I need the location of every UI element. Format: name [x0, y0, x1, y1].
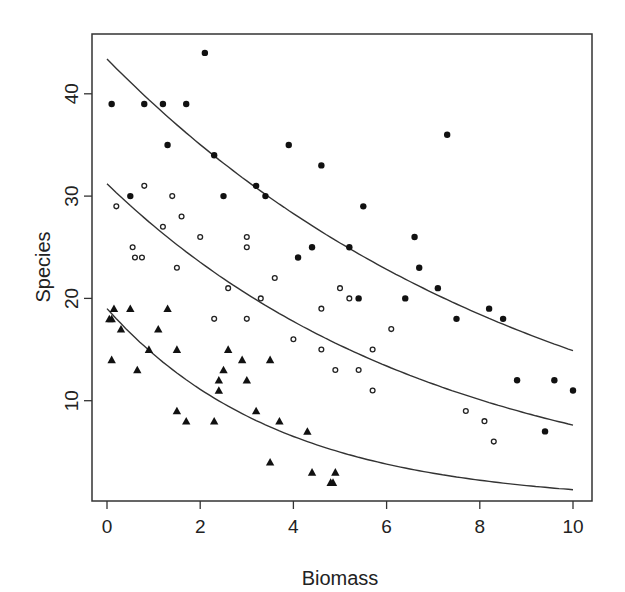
point-filled-circle — [318, 162, 324, 168]
point-filled-circle — [542, 428, 548, 434]
point-filled-circle — [411, 234, 417, 240]
point-filled-circle — [286, 142, 292, 148]
point-open-circle — [482, 419, 487, 424]
point-filled-triangle — [252, 407, 260, 415]
point-filled-triangle — [224, 345, 232, 353]
point-open-circle — [140, 255, 145, 260]
y-tick-label: 40 — [61, 83, 82, 104]
point-filled-circle — [453, 316, 459, 322]
point-filled-circle — [355, 295, 361, 301]
point-filled-circle — [108, 101, 114, 107]
point-filled-triangle — [173, 345, 181, 353]
point-filled-triangle — [219, 366, 227, 374]
point-filled-circle — [262, 193, 268, 199]
point-filled-circle — [500, 316, 506, 322]
x-tick-label: 10 — [562, 516, 583, 537]
point-open-circle — [370, 388, 375, 393]
point-filled-circle — [295, 254, 301, 260]
point-filled-triangle — [107, 356, 115, 364]
point-filled-triangle — [308, 468, 316, 476]
point-filled-triangle — [145, 345, 153, 353]
point-open-circle — [198, 235, 203, 240]
point-open-circle — [170, 194, 175, 199]
fit-curves — [107, 59, 573, 490]
point-open-circle — [333, 368, 338, 373]
y-axis-label: Species — [32, 231, 54, 302]
point-open-circle — [244, 235, 249, 240]
point-filled-circle — [360, 203, 366, 209]
point-filled-circle — [141, 101, 147, 107]
y-tick-label: 30 — [61, 186, 82, 207]
point-filled-circle — [514, 377, 520, 383]
point-filled-circle — [160, 101, 166, 107]
point-filled-triangle — [163, 304, 171, 312]
point-filled-circle — [220, 193, 226, 199]
point-open-circle — [389, 327, 394, 332]
point-filled-triangle — [266, 356, 274, 364]
point-open-circle — [161, 224, 166, 229]
point-filled-circle — [253, 183, 259, 189]
point-filled-circle — [570, 387, 576, 393]
point-filled-triangle — [154, 325, 162, 333]
point-filled-triangle — [331, 468, 339, 476]
point-filled-triangle — [126, 304, 134, 312]
point-filled-circle — [444, 132, 450, 138]
y-tick-label: 10 — [61, 390, 82, 411]
point-filled-circle — [202, 50, 208, 56]
point-open-circle — [463, 409, 468, 414]
plot-frame — [92, 34, 592, 501]
point-filled-triangle — [215, 376, 223, 384]
point-open-circle — [179, 214, 184, 219]
x-tick-label: 6 — [381, 516, 392, 537]
point-filled-circle — [416, 265, 422, 271]
point-filled-triangle — [238, 356, 246, 364]
x-axis-label: Biomass — [302, 567, 379, 589]
y-tick-label: 20 — [61, 288, 82, 309]
point-filled-circle — [211, 152, 217, 158]
x-tick-label: 2 — [195, 516, 206, 537]
scatter-chart: 0246810 10203040 Biomass Species — [0, 0, 625, 592]
x-tick-label: 8 — [475, 516, 486, 537]
point-open-circle — [258, 296, 263, 301]
point-filled-circle — [435, 285, 441, 291]
point-filled-circle — [127, 193, 133, 199]
point-open-circle — [347, 296, 352, 301]
point-filled-triangle — [133, 366, 141, 374]
point-open-circle — [319, 306, 324, 311]
fit-curve-group-mid — [107, 184, 573, 425]
x-axis: 0246810 — [102, 501, 584, 537]
point-filled-triangle — [215, 386, 223, 394]
point-filled-triangle — [275, 417, 283, 425]
point-filled-triangle — [266, 458, 274, 466]
point-filled-circle — [183, 101, 189, 107]
point-filled-triangle — [303, 427, 311, 435]
point-open-circle — [142, 183, 147, 188]
point-filled-triangle — [210, 417, 218, 425]
point-open-circle — [130, 245, 135, 250]
point-filled-circle — [486, 305, 492, 311]
point-open-circle — [244, 316, 249, 321]
point-filled-triangle — [110, 304, 118, 312]
point-open-circle — [114, 204, 119, 209]
point-filled-circle — [346, 244, 352, 250]
data-points — [105, 50, 576, 486]
point-filled-circle — [164, 142, 170, 148]
x-tick-label: 0 — [102, 516, 113, 537]
point-filled-triangle — [182, 417, 190, 425]
point-open-circle — [491, 439, 496, 444]
point-open-circle — [319, 347, 324, 352]
point-filled-circle — [402, 295, 408, 301]
point-open-circle — [175, 265, 180, 270]
point-open-circle — [370, 347, 375, 352]
point-open-circle — [133, 255, 138, 260]
point-filled-circle — [551, 377, 557, 383]
point-filled-triangle — [173, 407, 181, 415]
fit-curve-group-low — [107, 309, 573, 490]
point-filled-triangle — [243, 376, 251, 384]
point-filled-circle — [309, 244, 315, 250]
x-tick-label: 4 — [288, 516, 299, 537]
point-open-circle — [338, 286, 343, 291]
fit-curve-group-high — [107, 59, 573, 351]
point-open-circle — [356, 368, 361, 373]
point-open-circle — [244, 245, 249, 250]
